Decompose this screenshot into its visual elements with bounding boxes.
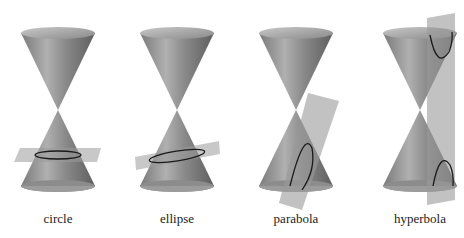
- ellipse-panel: [135, 27, 220, 192]
- label-circle: circle: [8, 211, 108, 227]
- circle-panel: [14, 27, 101, 192]
- double-cone: [140, 27, 214, 192]
- label-hyperbola: hyperbola: [370, 211, 464, 227]
- parabola-panel: [259, 27, 339, 210]
- conic-sections-diagram: [0, 0, 464, 238]
- double-cone: [21, 27, 95, 192]
- hyperbola-panel: [383, 13, 457, 205]
- cutting-plane: [14, 148, 101, 162]
- label-ellipse: ellipse: [127, 211, 227, 227]
- label-parabola: parabola: [246, 211, 346, 227]
